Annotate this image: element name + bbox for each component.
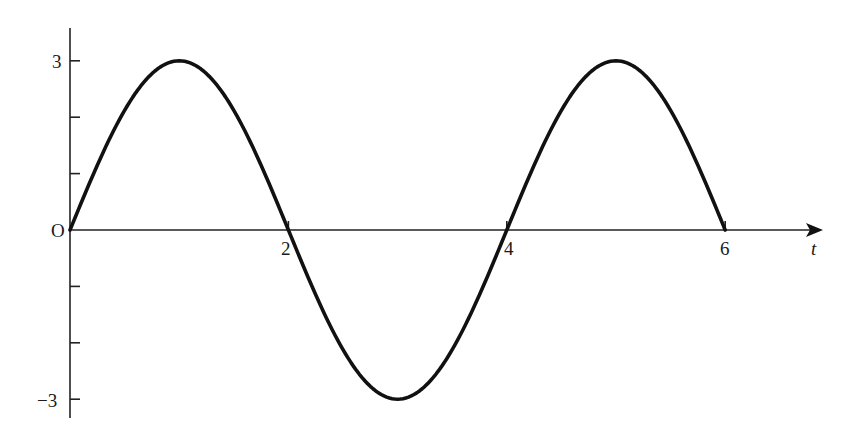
sine-wave-chart [0,0,861,439]
x-tick-label-6: 6 [720,239,730,258]
x-tick-label-4: 4 [504,239,514,258]
y-tick-label-3: 3 [52,52,62,71]
origin-label: O [51,221,65,240]
x-tick-label-2: 2 [281,239,291,258]
x-axis-title: t [811,239,816,258]
y-tick-label-neg3: −3 [37,391,57,410]
